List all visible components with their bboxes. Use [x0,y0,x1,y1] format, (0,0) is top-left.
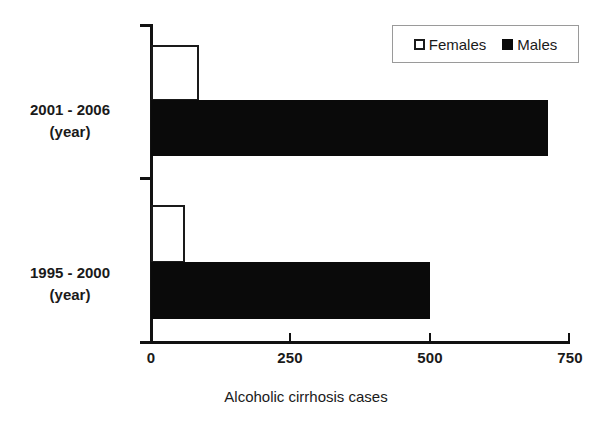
x-axis-tick-label-750: 750 [557,349,583,366]
category-label-2001-2006: 2001 - 2006 (year) [0,99,140,143]
bar-chart: 0 250 500 750 2001 - 2006 (year) 1995 - … [0,0,612,429]
category-label-1995-2000-line1: 1995 - 2000 [30,264,110,281]
category-label-2001-2006-line1: 2001 - 2006 [30,101,110,118]
open-square-icon [414,39,425,50]
x-axis-tick-label-0: 0 [147,349,156,366]
x-axis-tick-0 [150,333,152,342]
x-axis-title: Alcoholic cirrhosis cases [0,388,612,405]
y-axis-tick-top [140,24,151,27]
category-label-1995-2000-line2: (year) [0,284,140,306]
bar-males-1995-2000 [151,262,430,319]
legend-entry-females: Females [414,36,487,53]
x-axis-tick-label-250: 250 [277,349,303,366]
bar-females-1995-2000 [151,205,185,263]
x-axis-tick-250 [289,333,291,342]
x-axis-line [150,341,570,344]
legend-label-males: Males [517,36,557,53]
legend-entry-males: Males [502,36,557,53]
category-label-1995-2000: 1995 - 2000 (year) [0,262,140,306]
legend-label-females: Females [429,36,487,53]
bar-females-2001-2006 [151,45,199,101]
filled-square-icon [502,39,513,50]
x-axis-tick-label-500: 500 [417,349,443,366]
x-axis-tick-750 [568,333,570,342]
legend: Females Males [392,25,579,63]
x-axis-tick-500 [429,333,431,342]
y-axis-tick-middle [140,177,151,180]
bar-males-2001-2006 [151,100,548,156]
category-label-2001-2006-line2: (year) [0,121,140,143]
